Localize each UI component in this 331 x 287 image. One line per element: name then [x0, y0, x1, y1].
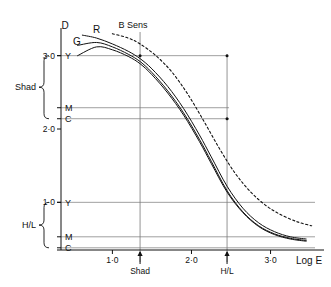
exposure-marker-arrow-1 [224, 251, 229, 256]
exposure-marker-arrow-0 [137, 251, 142, 256]
curve-b-sens [112, 34, 311, 226]
curve-label-g: G [73, 36, 81, 47]
curve-g [78, 42, 307, 240]
brace-hl [39, 202, 49, 247]
density-label-shadow-y: Y [65, 51, 71, 61]
y-tick-label-1: 2·0 [43, 124, 56, 134]
exposure-marker-label-1: H/L [220, 266, 234, 276]
intersection-dot-shad-yellow [139, 54, 142, 57]
density-label-shadow-m: M [65, 103, 73, 113]
intersection-dot-hl-cyan [226, 117, 229, 120]
y-axis-title: D [61, 20, 68, 31]
density-label-shadow-c: C [65, 114, 72, 124]
density-label-highlight-y: Y [65, 198, 71, 208]
brace-label-hl: H/L [22, 220, 36, 230]
brace-shad [39, 56, 49, 119]
density-label-highlight-c: C [65, 243, 72, 253]
x-tick-label-1: 2·0 [185, 255, 198, 265]
curve-label-b-sens: B Sens [118, 20, 148, 30]
curve-y [78, 47, 307, 242]
curve-r [82, 35, 306, 239]
x-axis-title: Log E [296, 255, 322, 266]
exposure-marker-label-0: Shad [130, 266, 150, 276]
x-tick-label-2: 3·0 [264, 255, 277, 265]
x-tick-label-0: 1·0 [106, 255, 119, 265]
characteristic-curve-figure: 1·02·03·01·02·03·0DLog ERGB SensYMCYMCSh… [0, 0, 331, 287]
density-label-highlight-m: M [65, 232, 73, 242]
curve-label-r: R [93, 24, 100, 35]
chart-canvas: 1·02·03·01·02·03·0DLog ERGB SensYMCYMCSh… [0, 0, 331, 287]
brace-label-shad: Shad [15, 82, 36, 92]
intersection-dot-hl-top [226, 54, 229, 57]
